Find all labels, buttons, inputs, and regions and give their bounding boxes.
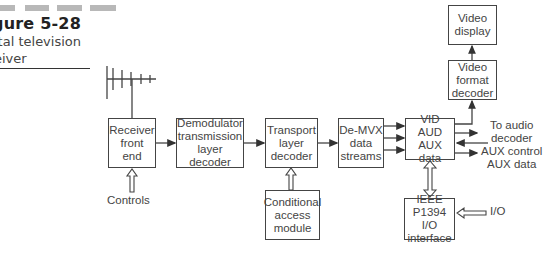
antenna-icon [107,66,156,118]
demodulator-block: Demodulatortransmissionlayer decoder [176,118,244,168]
output-labels: To audio decoder AUX control AUX data [481,119,542,171]
vid-aud-aux-block: VIDAUDAUX data [405,118,455,160]
receiver-front-end-block: Receiverfrontend [108,118,156,168]
video-display-block: Videodisplay [448,5,497,45]
ieee-p1394-interface-block: IEEEP1394 I/Ointerface [404,198,455,240]
io-label: I/O [490,205,505,218]
demvx-data-streams-block: De-MVXdatastreams [338,118,384,168]
conditional-access-module-block: Conditionalaccessmodule [265,190,320,240]
controls-label: Controls [107,194,150,207]
transport-layer-decoder-block: Transportlayerdecoder [265,118,318,168]
video-format-decoder-block: Videoformatdecoder [448,60,497,100]
